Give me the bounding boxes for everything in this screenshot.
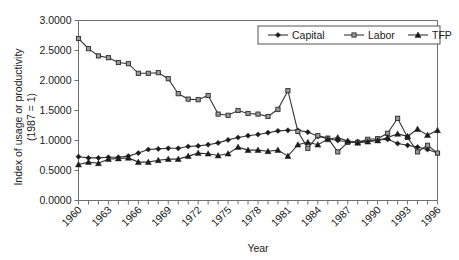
data-point-diamond [225,137,230,142]
data-point-square [256,112,260,116]
data-point-diamond [156,146,161,151]
data-point-triangle [335,135,341,140]
data-point-diamond [265,130,270,135]
y-tick-label: 2.0000 [39,74,71,86]
data-point-square [136,71,140,75]
y-tick-label: 1.5000 [39,104,71,116]
data-point-diamond [176,146,181,151]
data-point-square [216,112,220,116]
chart-container: Index of usage or productivity (1987 = 1… [0,0,459,260]
data-point-square [415,150,419,154]
data-point-diamond [206,142,211,147]
data-point-square [196,98,200,102]
data-point-diamond [216,140,221,145]
data-point-diamond [166,146,171,151]
x-tick-label: 1996 [418,203,443,228]
data-point-square [286,89,290,93]
data-point-square [276,107,280,111]
x-tick-label: 1975 [208,203,233,228]
y-axis-tick-labels: 0.00000.50001.00001.50002.00002.50003.00… [39,14,71,206]
x-axis-title: Year [247,242,269,254]
data-point-triangle [305,139,311,144]
x-tick-label: 1984 [298,203,323,228]
x-tick-label: 1987 [328,203,353,228]
x-axis-tick-labels: 1960196319661969197219751978198119841987… [59,203,443,228]
data-point-square [306,146,310,150]
data-point-square [336,150,340,154]
data-point-diamond [395,141,400,146]
x-tick-label: 1969 [149,203,174,228]
y-axis-title-line2: (1987 = 1) [25,93,37,141]
legend-label-labor: Labor [368,29,395,41]
data-point-triangle [235,144,241,149]
y-tick-label: 2.5000 [39,44,71,56]
data-point-triangle [415,126,421,131]
data-point-square [166,77,170,81]
data-point-square [435,151,439,155]
data-point-square [96,54,100,58]
data-point-square [425,143,429,147]
x-tick-label: 1993 [388,203,413,228]
data-point-square [106,56,110,60]
y-tick-label: 3.0000 [39,14,71,26]
data-point-square [206,93,210,97]
data-point-square [76,36,80,40]
data-point-square [296,129,300,133]
data-point-square [86,47,90,51]
productivity-index-line-chart: Index of usage or productivity (1987 = 1… [0,0,459,260]
data-point-diamond [245,133,250,138]
data-point-square [116,60,120,64]
x-tick-label: 1963 [89,203,114,228]
data-point-square [176,92,180,96]
data-point-square [156,71,160,75]
data-point-diamond [196,143,201,148]
data-point-diamond [405,143,410,148]
chart-legend: CapitalLaborTFP [258,26,452,44]
y-axis-title-line1: Index of usage or productivity [12,48,24,186]
x-tick-label: 1966 [119,203,144,228]
data-point-diamond [96,155,101,160]
x-tick-label: 1990 [358,203,383,228]
data-point-square [352,33,356,37]
data-point-square [226,113,230,117]
y-axis-tick-marks [75,21,79,201]
data-point-diamond [76,154,81,159]
y-tick-label: 1.0000 [39,134,71,146]
data-point-square [266,114,270,118]
x-tick-label: 1981 [268,203,293,228]
data-point-diamond [136,151,141,156]
data-point-diamond [255,132,260,137]
data-point-square [236,108,240,112]
data-point-square [246,111,250,115]
data-point-square [126,62,130,66]
data-point-square [396,116,400,120]
data-point-diamond [146,147,151,152]
data-point-diamond [235,135,240,140]
x-tick-label: 1978 [238,203,263,228]
series-layer [76,36,441,167]
data-point-diamond [186,144,191,149]
y-tick-label: 0.0000 [39,194,71,206]
data-point-square [186,97,190,101]
data-point-triangle [395,131,401,136]
data-point-diamond [275,128,280,133]
data-point-triangle [425,132,431,137]
legend-label-capital: Capital [292,29,325,41]
data-point-diamond [305,130,310,135]
y-axis-title: Index of usage or productivity (1987 = 1… [12,48,37,186]
x-tick-label: 1960 [59,203,84,228]
data-point-square [316,134,320,138]
x-tick-label: 1972 [179,203,204,228]
data-point-triangle [435,127,441,132]
data-point-triangle [225,151,231,156]
data-point-square [146,71,150,75]
data-point-diamond [285,128,290,133]
y-tick-label: 0.5000 [39,164,71,176]
legend-label-tfp: TFP [432,29,452,41]
x-axis-tick-marks [79,201,438,205]
